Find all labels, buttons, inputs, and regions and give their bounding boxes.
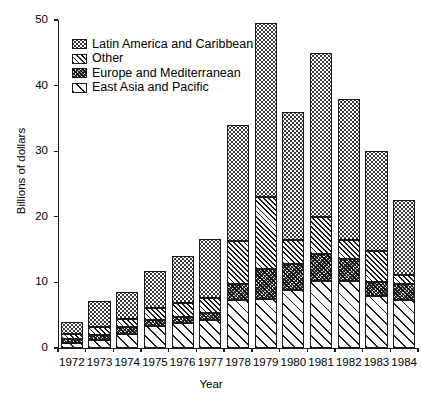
bar-segment <box>88 301 110 327</box>
legend-swatch-icon <box>72 54 87 64</box>
bar-segment <box>365 282 387 295</box>
bar-segment <box>116 292 138 319</box>
y-tick-mark <box>54 216 58 217</box>
bar-segment <box>310 254 332 282</box>
bar-segment <box>393 275 415 284</box>
y-axis-title: Billions of dollars <box>15 106 27 236</box>
legend-item: Latin America and Caribbean <box>72 37 253 52</box>
bar-segment <box>255 23 277 197</box>
legend-item: Europe and Mediterranean <box>72 66 253 81</box>
bar-segment <box>310 217 332 254</box>
legend-label: Other <box>92 52 123 65</box>
legend-item: Other <box>72 52 253 67</box>
legend-swatch-icon <box>72 83 87 93</box>
x-tick-mark <box>362 348 363 352</box>
x-tick-mark <box>196 348 197 352</box>
bar-1984 <box>393 20 415 348</box>
bar-segment <box>393 284 415 300</box>
bar-segment <box>310 53 332 217</box>
bar-segment <box>255 197 277 269</box>
bar-1981 <box>310 20 332 348</box>
y-tick-label: 50 <box>6 14 48 26</box>
bar-segment <box>255 269 277 299</box>
bar-segment <box>61 343 83 348</box>
y-tick-mark <box>54 19 58 20</box>
bar-segment <box>61 322 83 334</box>
bar-segment <box>61 334 83 340</box>
legend-label: Europe and Mediterranean <box>92 67 241 80</box>
bar-segment <box>310 281 332 348</box>
x-tick-mark <box>307 348 308 352</box>
bar-segment <box>365 251 387 282</box>
bar-segment <box>199 239 221 298</box>
bar-segment <box>338 240 360 260</box>
bar-segment <box>282 264 304 290</box>
stacked-bar-chart: 01020304050 1972197319741975197619771978… <box>0 0 422 408</box>
bar-segment <box>61 339 83 342</box>
bar-segment <box>199 313 221 320</box>
y-tick-label: 30 <box>6 145 48 157</box>
bar-segment <box>282 240 304 264</box>
y-tick-label: 10 <box>6 276 48 288</box>
legend-swatch-icon <box>72 39 87 49</box>
y-tick-label: 20 <box>6 211 48 223</box>
legend-label: Latin America and Caribbean <box>92 38 253 51</box>
x-tick-mark <box>168 348 169 352</box>
x-tick-mark <box>417 348 418 352</box>
x-axis-title: Year <box>0 378 422 390</box>
bar-1983 <box>365 20 387 348</box>
bar-segment <box>282 112 304 240</box>
bar-1982 <box>338 20 360 348</box>
bar-1980 <box>282 20 304 348</box>
bar-segment <box>172 317 194 324</box>
bar-segment <box>172 303 194 316</box>
bar-segment <box>227 284 249 300</box>
x-tick-mark <box>334 348 335 352</box>
y-tick-mark <box>54 282 58 283</box>
bar-segment <box>144 326 166 348</box>
x-tick-mark <box>279 348 280 352</box>
x-tick-mark <box>251 348 252 352</box>
y-tick-label: 40 <box>6 80 48 92</box>
bar-segment <box>116 334 138 348</box>
legend-label: East Asia and Pacific <box>92 81 209 94</box>
bar-segment <box>365 151 387 251</box>
bar-1979 <box>255 20 277 348</box>
x-tick-mark <box>140 348 141 352</box>
bar-segment <box>338 281 360 348</box>
bar-segment <box>144 271 166 308</box>
y-tick-label: 0 <box>6 342 48 354</box>
y-tick-mark <box>54 151 58 152</box>
x-tick-mark <box>85 348 86 352</box>
y-axis-line <box>58 20 59 348</box>
x-tick-mark <box>390 348 391 352</box>
bar-segment <box>393 200 415 275</box>
x-tick-mark <box>223 348 224 352</box>
bar-segment <box>393 300 415 348</box>
legend-item: East Asia and Pacific <box>72 81 253 96</box>
bar-segment <box>338 99 360 240</box>
bar-segment <box>227 125 249 241</box>
bar-segment <box>88 335 110 340</box>
bar-segment <box>338 259 360 281</box>
bar-segment <box>116 327 138 334</box>
bar-segment <box>116 319 138 327</box>
bar-segment <box>144 320 166 326</box>
bar-segment <box>172 256 194 304</box>
bar-segment <box>172 323 194 348</box>
x-tick-mark <box>113 348 114 352</box>
bar-segment <box>88 327 110 335</box>
bar-segment <box>199 320 221 348</box>
bar-segment <box>365 296 387 348</box>
legend-swatch-icon <box>72 68 87 78</box>
x-tick-label: 1984 <box>387 356 421 368</box>
bar-segment <box>88 340 110 348</box>
y-tick-mark <box>54 85 58 86</box>
bar-segment <box>282 290 304 348</box>
x-tick-mark <box>57 348 58 352</box>
bar-segment <box>199 298 221 312</box>
bar-segment <box>144 308 166 320</box>
bar-segment <box>255 299 277 348</box>
bar-segment <box>227 300 249 348</box>
bar-segment <box>227 241 249 284</box>
